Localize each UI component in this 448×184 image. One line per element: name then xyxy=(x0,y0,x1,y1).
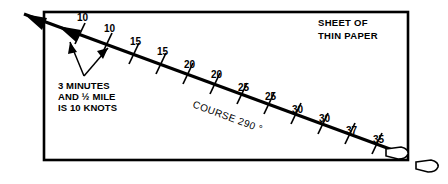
leader-arrowhead-right-icon xyxy=(97,48,108,59)
vessel-symbol-on-line xyxy=(386,147,408,159)
note-line-1: 3 MINUTES xyxy=(58,80,110,91)
tick-label: 20 xyxy=(184,59,196,70)
sheet-caption-line-1: SHEET OF xyxy=(318,17,368,28)
note-line-2: AND ½ MILE xyxy=(58,91,115,102)
tick-label: 15 xyxy=(157,46,169,57)
tick-label: 35 xyxy=(373,134,385,145)
sheet-caption-line-2: THIN PAPER xyxy=(318,30,378,41)
figure-canvas: 10 15 20 25 30 37 10 15 20 25 30 35 3 MI… xyxy=(0,0,448,184)
tick-label: 30 xyxy=(319,113,331,124)
tick-label: 37 xyxy=(346,125,358,136)
tick-label: 10 xyxy=(104,23,116,34)
tick-label: 20 xyxy=(211,69,223,80)
note-leader-lines xyxy=(68,42,108,76)
sheet-caption: SHEET OF THIN PAPER xyxy=(318,17,378,41)
tick-label: 10 xyxy=(77,12,89,23)
note-line-3: IS 10 KNOTS xyxy=(58,102,117,113)
course-bearing-label: COURSE 290 ° xyxy=(191,99,264,135)
tick-label: 25 xyxy=(265,91,277,102)
vessel-symbol-outside-frame xyxy=(416,160,438,172)
tick-label: 25 xyxy=(238,82,250,93)
tick-label: 30 xyxy=(292,104,304,115)
plotting-diagram: 10 15 20 25 30 37 10 15 20 25 30 35 3 MI… xyxy=(0,0,448,184)
speed-note: 3 MINUTES AND ½ MILE IS 10 KNOTS xyxy=(58,80,117,113)
tick-label: 15 xyxy=(130,36,142,47)
